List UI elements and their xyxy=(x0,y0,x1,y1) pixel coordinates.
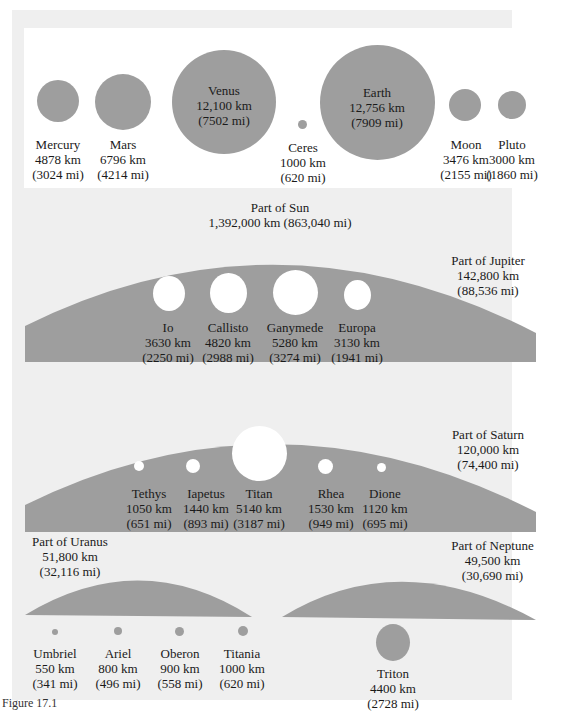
titan-label: Titan5140 km(3187 mi) xyxy=(229,486,289,531)
tethys-disc xyxy=(134,461,144,471)
figure-caption: Figure 17.1 xyxy=(2,696,57,711)
iapetus-disc xyxy=(186,459,200,473)
rhea-label: Rhea1530 km(949 mi) xyxy=(301,486,361,531)
triton-label: Triton4400 km(2728 mi) xyxy=(363,666,423,711)
uranus-segment xyxy=(25,580,252,617)
tethys-label: Tethys1050 km(651 mi) xyxy=(119,486,179,531)
oberon-label: Oberon900 km(558 mi) xyxy=(150,646,210,691)
ariel-disc xyxy=(114,627,122,635)
umbriel-label: Umbriel550 km(341 mi) xyxy=(25,646,85,691)
saturn-label: Part of Saturn120,000 km(74,400 mi) xyxy=(428,427,548,472)
callisto-disc xyxy=(210,273,247,313)
titania-disc xyxy=(238,626,248,636)
dione-label: Dione1120 km(695 mi) xyxy=(355,486,415,531)
ariel-label: Ariel800 km(496 mi) xyxy=(88,646,148,691)
ganymede-disc xyxy=(273,270,318,315)
rhea-disc xyxy=(318,459,333,474)
europa-disc xyxy=(344,280,371,310)
neptune-label: Part of Neptune49,500 km(30,690 mi) xyxy=(435,538,550,583)
uranus-label: Part of Uranus51,800 km(32,116 mi) xyxy=(20,534,120,579)
oberon-disc xyxy=(175,627,184,636)
dione-disc xyxy=(377,463,386,472)
europa-label: Europa3130 km(1941 mi) xyxy=(327,320,387,365)
callisto-label: Callisto4820 km(2988 mi) xyxy=(198,320,258,365)
jupiter-label: Part of Jupiter142,800 km(88,536 mi) xyxy=(428,253,548,298)
iapetus-label: Iapetus1440 km(893 mi) xyxy=(176,486,236,531)
io-label: Io3630 km(2250 mi) xyxy=(138,320,198,365)
ganymede-label: Ganymede5280 km(3274 mi) xyxy=(265,320,325,365)
titan-disc xyxy=(232,426,287,481)
titania-label: Titania1000 km(620 mi) xyxy=(212,646,272,691)
triton-disc xyxy=(376,624,410,661)
umbriel-disc xyxy=(52,629,58,635)
io-disc xyxy=(153,276,185,311)
neptune-segment xyxy=(282,582,536,620)
